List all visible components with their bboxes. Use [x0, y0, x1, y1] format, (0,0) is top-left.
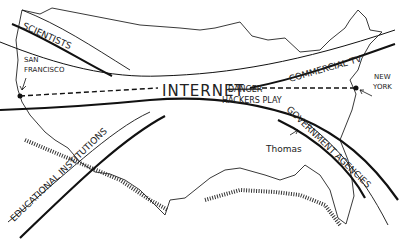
scientists-label: SCIENTISTS [21, 21, 73, 51]
educational-label: EDUCATIONAL INSTITUTIONS [8, 126, 109, 224]
ny-label-1: NEW [374, 73, 391, 81]
map-labels: INTERNET DANGER HACKERS PLAY SAN FRANCIS… [0, 0, 402, 251]
ny-label-2: YORK [372, 83, 392, 91]
commercial-tv-label: COMMERCIAL TV [288, 53, 364, 84]
thomas-label: Thomas [265, 144, 302, 154]
sf-label-2: FRANCISCO [24, 66, 65, 74]
internet-map-cartoon: INTERNET DANGER HACKERS PLAY SAN FRANCIS… [0, 0, 402, 251]
sf-label-1: SAN [24, 56, 39, 64]
danger-label: DANGER [228, 85, 263, 94]
hackers-play-label: HACKERS PLAY [222, 96, 282, 105]
